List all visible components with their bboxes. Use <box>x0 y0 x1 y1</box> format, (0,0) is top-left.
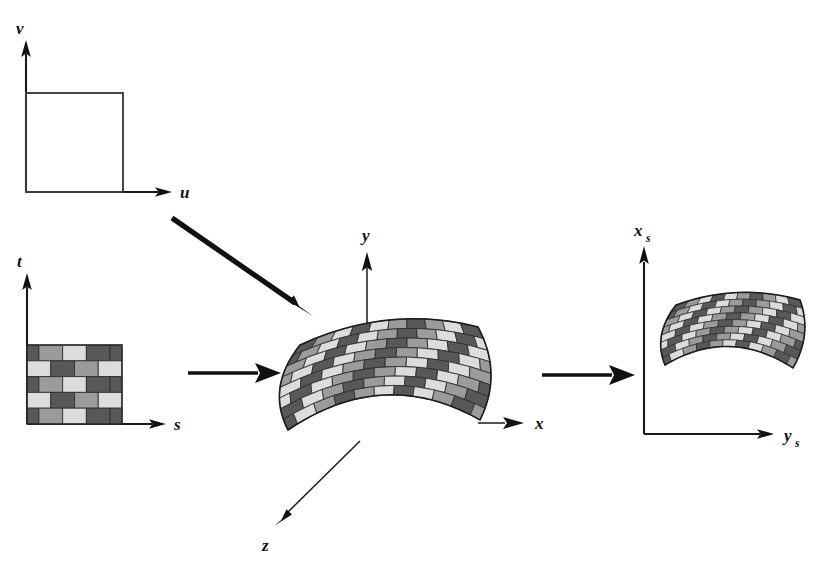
brick-tile <box>98 392 122 408</box>
projected-curved-brick-surface <box>661 292 805 368</box>
st-texture-space: t s <box>17 252 181 434</box>
curved-brick-surface <box>279 319 491 430</box>
brick-tile <box>110 408 122 424</box>
ys-axis-label-subscript: s <box>794 437 800 449</box>
brick-tile <box>716 333 730 340</box>
brick-tile <box>728 299 743 306</box>
brick-tile <box>86 345 110 361</box>
brick-tile <box>407 338 428 349</box>
brick-tile <box>734 306 749 313</box>
uv-parameter-space: v u <box>16 19 189 202</box>
brick-tile <box>27 392 51 408</box>
s-axis-label: s <box>173 415 181 434</box>
z-axis-line <box>288 441 360 512</box>
brick-tile <box>386 338 407 348</box>
arrow-uv-to-surface <box>172 218 313 316</box>
x-axis-arrowhead <box>503 417 524 429</box>
brick-tile <box>396 348 417 358</box>
brick-tile <box>51 361 75 377</box>
ys-axis-label: y <box>782 426 792 445</box>
brick-tile <box>86 377 110 393</box>
brick-tile <box>39 408 63 424</box>
brick-tile <box>730 333 745 341</box>
brick-tile <box>86 408 110 424</box>
brick-tile <box>27 361 51 377</box>
brick-tile <box>384 376 405 386</box>
unit-square-outline <box>26 93 123 192</box>
brick-tile <box>39 377 63 393</box>
brick-texture-square <box>27 345 122 424</box>
pipeline-diagram: v u t s y <box>0 0 833 571</box>
xyz-object-space: y x z <box>261 226 544 555</box>
brick-tile <box>98 361 122 377</box>
xs-axis-arrowhead <box>639 246 649 264</box>
brick-tile <box>63 345 87 361</box>
brick-tile <box>385 357 407 367</box>
xs-axis-label-subscript: s <box>645 232 651 244</box>
brick-tile <box>75 392 99 408</box>
brick-tile <box>742 299 756 307</box>
brick-tile <box>63 377 87 393</box>
brick-tile <box>39 345 63 361</box>
brick-tile <box>375 348 397 359</box>
brick-tile <box>27 408 39 424</box>
brick-tile <box>395 366 417 376</box>
brick-tile <box>737 292 751 299</box>
brick-tile <box>724 326 739 333</box>
brick-tile <box>27 377 39 393</box>
brick-tile <box>110 345 122 361</box>
arrow-st-to-surface <box>188 363 281 383</box>
y-axis-label: y <box>360 226 370 245</box>
v-axis-label: v <box>16 19 24 38</box>
brick-tile <box>397 328 417 338</box>
brick-tile <box>63 408 87 424</box>
brick-tile <box>407 319 426 329</box>
brick-tile <box>726 313 741 320</box>
u-axis-label: u <box>180 183 189 202</box>
brick-tile <box>732 320 747 327</box>
brick-tile <box>51 392 75 408</box>
brick-tile <box>417 328 438 339</box>
t-axis-label: t <box>17 252 23 271</box>
brick-tile <box>75 361 99 377</box>
figure-canvas: v u t s y <box>0 0 833 571</box>
brick-tile <box>374 366 395 377</box>
brick-tile <box>718 320 733 327</box>
xs-axis-label: x <box>633 221 643 240</box>
brick-tile <box>27 345 39 361</box>
brick-tile <box>720 306 735 314</box>
z-axis-label: z <box>261 536 269 555</box>
brick-tile <box>110 377 122 393</box>
screen-space: x s y s <box>633 221 805 449</box>
arrow-surface-to-screen <box>542 365 635 385</box>
x-axis-label: x <box>534 414 544 433</box>
